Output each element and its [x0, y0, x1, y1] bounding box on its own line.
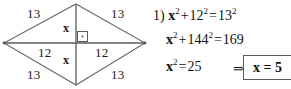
eq1-equals-operator: =: [208, 8, 218, 23]
eq2-variable: x: [166, 32, 173, 47]
equation-line-3: x2=25: [166, 59, 201, 74]
label-diagonal-half-right: 12: [95, 46, 108, 59]
label-vertical-half-top: x: [63, 22, 69, 35]
eq3-variable-exponent: 2: [173, 57, 178, 67]
label-side-bottom-right: 13: [111, 68, 124, 81]
answer-box: x = 5: [243, 55, 291, 80]
eq3-variable: x: [166, 59, 173, 74]
vertex-right-dot: [144, 42, 147, 45]
eq2-rhs: 169: [223, 32, 244, 47]
right-angle-dot-icon: [82, 36, 84, 38]
label-diagonal-half-left: 12: [38, 46, 51, 59]
eq1-rhs-base: 13: [218, 8, 232, 23]
eq2-plus-operator: +: [178, 32, 188, 47]
equation-line-1: 1) x2+122=132: [153, 8, 236, 23]
solution-panel: 1) x2+122=132 x2+1442=169 x2=25 ⇒ x = 5: [150, 0, 291, 89]
vertex-left-dot: [3, 42, 6, 45]
eq1-plus-operator: +: [180, 8, 190, 23]
eq2-term2-base: 144: [187, 32, 208, 47]
eq1-term2-base: 12: [190, 8, 204, 23]
label-side-top-left: 13: [27, 7, 40, 20]
eq3-rhs: 25: [187, 59, 201, 74]
label-side-top-right: 13: [111, 7, 124, 20]
eq3-equals-operator: =: [178, 59, 188, 74]
equation-line-2: x2+1442=169: [166, 32, 244, 47]
label-side-bottom-left: 13: [27, 68, 40, 81]
worksheet-canvas: 13 13 13 13 12 12 x x 1) x2+122=132 x2+1…: [0, 0, 291, 89]
label-vertical-half-bottom: x: [63, 54, 69, 67]
eq2-variable-exponent: 2: [173, 30, 178, 40]
eq1-variable-exponent: 2: [175, 6, 180, 16]
rhombus-diagram: [0, 0, 150, 89]
eq1-rhs-exponent: 2: [232, 6, 237, 16]
answer-value: x = 5: [253, 60, 282, 76]
eq2-equals-operator: =: [213, 32, 223, 47]
problem-number: 1): [153, 8, 165, 23]
rhombus-figure-panel: 13 13 13 13 12 12 x x: [0, 0, 150, 89]
